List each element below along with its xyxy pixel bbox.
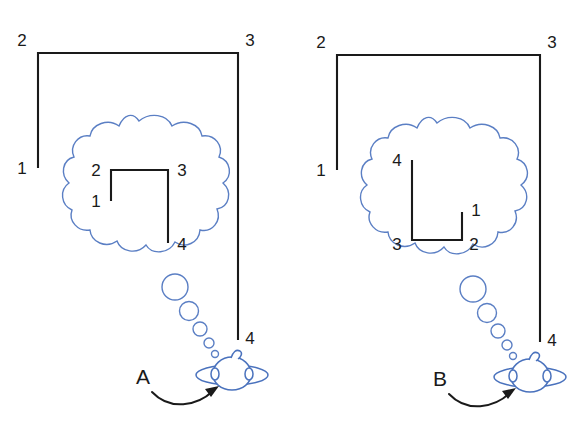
inner-b-label-1: 1 (471, 201, 480, 220)
tail-bubble-a-1 (162, 274, 188, 300)
panel-b: 1 2 3 4 4 3 2 1 (316, 33, 566, 406)
tail-bubble-b-4 (502, 340, 512, 350)
inner-a-label-3: 3 (177, 161, 186, 180)
figure-container: 1 2 3 4 1 2 3 4 (0, 0, 587, 432)
person-a-arm-right (245, 368, 253, 380)
tail-bubble-a-3 (193, 322, 207, 336)
tail-bubble-b-1 (460, 276, 486, 302)
tail-bubble-b-5 (510, 353, 517, 360)
panel-a-letter: A (136, 365, 150, 388)
inner-a-label-2: 2 (91, 161, 100, 180)
person-figure-a (196, 350, 268, 390)
outer-b-label-2: 2 (316, 33, 325, 52)
outer-a-label-4: 4 (245, 329, 254, 348)
person-b-hair-tuft (529, 352, 539, 361)
tail-bubble-a-4 (204, 338, 214, 348)
person-b-arm-right (543, 370, 551, 382)
panel-b-letter: B (433, 367, 447, 390)
inner-a-label-1: 1 (91, 192, 100, 211)
outer-a-label-2: 2 (17, 31, 26, 50)
outer-a-label-1: 1 (17, 159, 26, 178)
thought-cloud-a (63, 115, 230, 251)
inner-b-label-2: 2 (469, 235, 478, 254)
person-a-hair-tuft (231, 350, 241, 359)
inner-b-label-4: 4 (392, 151, 401, 170)
tail-bubble-b-2 (478, 304, 497, 323)
outer-b-label-4: 4 (547, 331, 556, 350)
panel-b-arrow (449, 393, 510, 406)
tail-bubble-a-5 (212, 351, 219, 358)
outer-a-label-3: 3 (245, 31, 254, 50)
inner-b-label-3: 3 (392, 235, 401, 254)
tail-bubble-b-3 (491, 324, 505, 338)
outer-b-label-3: 3 (547, 33, 556, 52)
outer-b-label-1: 1 (316, 161, 325, 180)
panel-a: 1 2 3 4 1 2 3 4 (17, 31, 268, 404)
thought-cloud-b (361, 117, 528, 253)
panel-a-arrow (152, 391, 213, 404)
person-b-arm-left (509, 370, 517, 382)
person-figure-b (494, 352, 566, 392)
tail-bubble-a-2 (180, 302, 199, 321)
diagram-canvas: 1 2 3 4 1 2 3 4 (0, 0, 587, 432)
person-a-arm-left (211, 368, 219, 380)
inner-a-label-4: 4 (177, 235, 186, 254)
